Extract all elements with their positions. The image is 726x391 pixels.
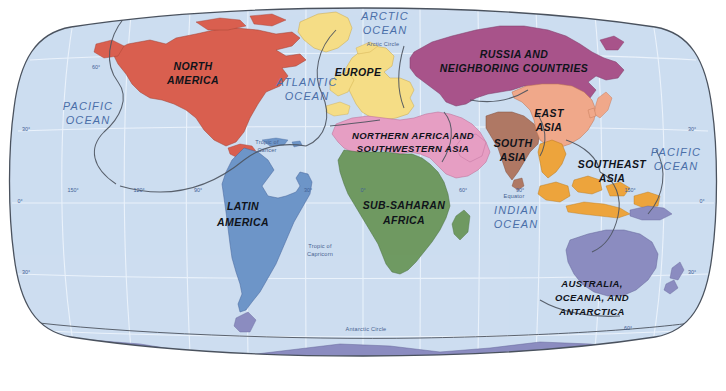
lon-label-0: 0° <box>360 187 365 193</box>
lat-label-right-30s: 30° <box>688 269 696 275</box>
ocean-label-pacific-west-line2: OCEAN <box>66 114 111 126</box>
region-label-sub-saharan-l2: AFRICA <box>382 214 425 226</box>
region-label-russia-l1: RUSSIA AND <box>480 48 549 60</box>
lat-label-left-0: 0° <box>17 198 22 204</box>
ocean-label-atlantic-line2: OCEAN <box>285 90 330 102</box>
region-label-east-asia-l2: ASIA <box>535 121 563 133</box>
region-label-australia-l3: ANTARCTICA <box>558 306 625 317</box>
lon-label-90w: 90° <box>194 187 202 193</box>
ocean-label-arctic-line1: ARCTIC <box>360 10 409 22</box>
lat-label-left-30n: 30° <box>22 126 30 132</box>
label-equator: Equator <box>504 193 525 199</box>
globe-body <box>0 0 726 391</box>
region-label-south-asia-l2: ASIA <box>499 151 527 163</box>
world-map-svg: PACIFIC OCEAN ATLANTIC OCEAN ARCTIC OCEA… <box>0 0 726 391</box>
lat-label-inner-60s: 60° <box>624 325 632 331</box>
label-tropic-of-cancer-l2: Cancer <box>257 147 276 153</box>
region-label-east-asia-l1: EAST <box>534 107 565 119</box>
ocean-label-arctic-line2: OCEAN <box>363 24 408 36</box>
lon-label-120w: 120° <box>133 187 144 193</box>
lat-label-right-0: 0° <box>699 198 704 204</box>
label-arctic-circle: Arctic Circle <box>367 41 399 47</box>
lat-label-left-30s: 30° <box>22 269 30 275</box>
region-label-south-asia-l1: SOUTH <box>494 137 533 149</box>
region-label-australia-l2: OCEANIA, AND <box>555 292 629 303</box>
lon-label-60e: 60° <box>459 187 467 193</box>
region-label-southeast-asia-l2: ASIA <box>598 172 626 184</box>
label-tropic-of-capricorn-l1: Tropic of <box>308 243 332 249</box>
world-map-figure: PACIFIC OCEAN ATLANTIC OCEAN ARCTIC OCEA… <box>0 0 726 391</box>
lat-label-inner-60n: 60° <box>92 64 100 70</box>
ocean-label-pacific-east-line1: PACIFIC <box>651 146 701 158</box>
region-label-australia-l1: AUSTRALIA, <box>560 278 623 289</box>
ocean-label-indian-line1: INDIAN <box>494 204 538 216</box>
lon-label-150w: 150° <box>67 187 78 193</box>
region-label-europe: EUROPE <box>335 66 382 78</box>
ocean-label-indian-line2: OCEAN <box>494 218 539 230</box>
lon-label-30w: 30° <box>304 187 312 193</box>
lon-label-150e: 150° <box>624 187 635 193</box>
region-label-russia-l2: NEIGHBORING COUNTRIES <box>440 62 588 74</box>
region-label-sub-saharan-l1: SUB-SAHARAN <box>363 199 446 211</box>
ocean-label-atlantic-line1: ATLANTIC <box>275 76 337 88</box>
region-label-northern-africa-l2: SOUTHWESTERN ASIA <box>357 143 470 154</box>
lon-label-90e: 90° <box>516 187 524 193</box>
ocean-label-pacific-west-line1: PACIFIC <box>63 100 113 112</box>
region-label-northern-africa-l1: NORTHERN AFRICA AND <box>352 130 474 141</box>
region-label-north-america-l1: NORTH <box>173 60 212 72</box>
region-label-north-america-l2: AMERICA <box>166 74 219 86</box>
label-tropic-of-capricorn-l2: Capricorn <box>307 251 333 257</box>
ocean-label-pacific-east-line2: OCEAN <box>654 160 699 172</box>
region-label-latin-america-l2: AMERICA <box>216 216 269 228</box>
lat-label-right-30n: 30° <box>688 126 696 132</box>
label-tropic-of-cancer-l1: Tropic of <box>255 139 279 145</box>
label-antarctic-circle: Antarctic Circle <box>346 326 387 332</box>
region-label-latin-america-l1: LATIN <box>227 200 259 212</box>
region-label-southeast-asia-l1: SOUTHEAST <box>578 158 648 170</box>
